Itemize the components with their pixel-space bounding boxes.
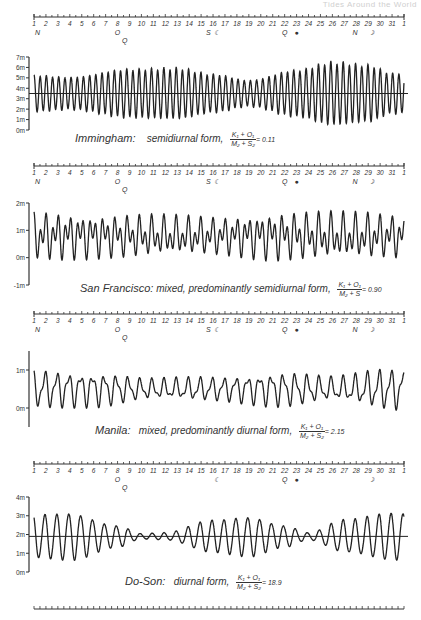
day-label: 25 (316, 467, 325, 474)
day-label: 20 (256, 20, 265, 27)
moon-phase-symbol: ☽ (368, 326, 375, 333)
day-label: 7 (104, 20, 108, 27)
day-label: 26 (328, 20, 337, 27)
day-label: 29 (364, 169, 373, 176)
day-label: 6 (92, 467, 96, 474)
day-label: 10 (138, 467, 146, 474)
day-label: 5 (80, 467, 84, 474)
day-label: 28 (352, 317, 361, 324)
moon-phase-symbol: Q (122, 484, 128, 492)
ratio-value: = 0.90 (362, 286, 382, 293)
day-label: 11 (150, 467, 157, 474)
day-label: 9 (128, 467, 132, 474)
day-label: 30 (377, 20, 385, 27)
moon-phase-symbol: N (35, 178, 41, 185)
day-label: 24 (304, 20, 313, 27)
ratio-value: = 2.15 (325, 428, 345, 435)
form-ratio: K₁ + O₁M₂ + S₂ (230, 131, 256, 148)
day-label: 20 (256, 467, 265, 474)
day-label: 17 (221, 169, 229, 176)
moon-phase-symbol: Q (282, 178, 288, 186)
tide-curve (34, 61, 404, 124)
day-label: 23 (292, 169, 301, 176)
day-label: 4 (68, 317, 72, 324)
y-tick-label: 5m (16, 74, 25, 81)
moon-phase-symbol: N (353, 178, 359, 185)
y-tick-label: 1m (16, 227, 25, 234)
day-label: 14 (186, 317, 194, 324)
day-label: 31 (388, 317, 396, 324)
day-label: 5 (80, 169, 84, 176)
day-label: 30 (377, 467, 385, 474)
day-label: 5 (80, 317, 84, 324)
form-ratio: K₁ + O₁M₂ + S (337, 281, 362, 298)
day-label: 21 (268, 20, 277, 27)
day-label: 15 (197, 317, 205, 324)
caption-manila: Manila: mixed, predominantly diurnal for… (95, 423, 345, 440)
day-label: 29 (364, 20, 373, 27)
tide-chart-figure: 1234567891011121314151617181920212223242… (0, 0, 421, 620)
day-label: 29 (364, 467, 373, 474)
day-label: 1 (402, 20, 406, 27)
day-label: 27 (340, 467, 349, 474)
day-label: 17 (221, 20, 229, 27)
y-tick-label: 1m (16, 367, 25, 374)
day-label: 1 (32, 20, 36, 27)
day-label: 18 (233, 467, 241, 474)
moon-phase-symbol: N (353, 326, 359, 333)
y-tick-label: 1m (16, 550, 25, 557)
day-label: 1 (402, 169, 406, 176)
tide-panel-1: -1m0m1m2m (14, 200, 404, 289)
day-label: 18 (233, 20, 241, 27)
moon-phase-symbol: ☾ (214, 29, 220, 36)
tide-panel-0: 0m1m2m3m4m5m6m7m (16, 54, 408, 134)
day-label: 15 (197, 169, 205, 176)
moon-phase-symbol: ● (294, 29, 298, 36)
moon-phase-symbol: ☾ (214, 326, 220, 333)
day-label: 13 (174, 169, 182, 176)
day-label: 2 (43, 169, 48, 176)
day-label: 1 (402, 467, 406, 474)
day-label: 9 (128, 169, 132, 176)
day-label: 26 (328, 169, 337, 176)
day-label: 22 (280, 169, 289, 176)
day-label: 1 (32, 467, 36, 474)
caption-san-francisco: San Francisco: mixed, predominantly semi… (80, 281, 382, 298)
day-label: 31 (388, 169, 396, 176)
day-label: 19 (245, 467, 253, 474)
day-label: 2 (43, 20, 48, 27)
moon-phase-symbol: Q (122, 186, 128, 194)
day-label: 18 (233, 317, 241, 324)
day-label: 13 (174, 317, 182, 324)
day-label: 5 (80, 20, 84, 27)
y-tick-label: 2m (16, 106, 25, 113)
day-label: 25 (316, 317, 325, 324)
moon-phase-symbol: ☾ (214, 178, 220, 185)
tide-curve (34, 211, 404, 261)
moon-phase-symbol: ☾ (214, 476, 220, 483)
moon-phase-symbol: Q (122, 334, 128, 342)
moon-phase-symbol: N (35, 29, 41, 36)
day-label: 21 (268, 317, 277, 324)
day-label: 23 (292, 467, 301, 474)
day-label: 3 (56, 467, 60, 474)
form-ratio: K₁ + O₁M₂ + S₂ (236, 574, 262, 591)
day-label: 27 (340, 20, 349, 27)
day-label: 19 (245, 169, 253, 176)
day-label: 22 (280, 467, 289, 474)
moon-phase-symbol: Q (282, 476, 288, 484)
moon-phase-symbol: ● (294, 178, 298, 185)
day-label: 24 (304, 317, 313, 324)
day-label: 4 (68, 169, 72, 176)
day-label: 28 (352, 20, 361, 27)
day-label: 14 (186, 169, 194, 176)
moon-phase-symbol: S (206, 326, 211, 333)
day-label: 6 (92, 20, 96, 27)
day-label: 14 (186, 467, 194, 474)
moon-phase-symbol: N (353, 29, 359, 36)
day-label: 22 (280, 20, 289, 27)
tide-panel-3: 0m1m2m3m4m (16, 494, 408, 576)
day-label: 15 (197, 467, 205, 474)
day-label: 17 (221, 467, 229, 474)
ratio-value: = 0.11 (256, 136, 275, 143)
